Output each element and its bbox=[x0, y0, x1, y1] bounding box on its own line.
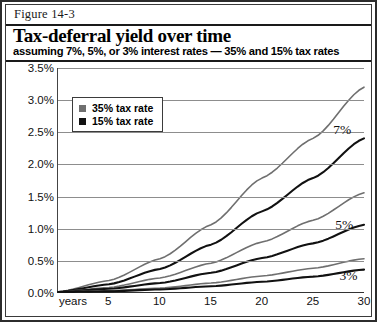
y-axis-tick: 0.0% bbox=[28, 287, 54, 299]
gridline bbox=[58, 229, 364, 230]
y-axis-tick: 2.0% bbox=[28, 158, 54, 170]
x-axis-tick: 25 bbox=[306, 295, 319, 307]
gridline bbox=[58, 261, 364, 262]
gridline bbox=[58, 132, 364, 133]
legend-swatch-icon bbox=[79, 118, 86, 125]
y-axis-tick: 1.0% bbox=[28, 223, 54, 235]
x-axis-tick: 5 bbox=[105, 295, 111, 307]
legend-label: 15% tax rate bbox=[92, 115, 153, 127]
x-axis-tick: 30 bbox=[358, 295, 371, 307]
legend-item-tax35: 35% tax rate bbox=[79, 102, 153, 114]
legend-item-tax15: 15% tax rate bbox=[79, 115, 153, 127]
series-line bbox=[58, 138, 364, 292]
gridline bbox=[58, 68, 364, 69]
figure-panel: Figure 14-3 Tax-deferral yield over time… bbox=[0, 0, 377, 322]
x-axis-tick: 20 bbox=[255, 295, 268, 307]
figure-number: Figure 14-3 bbox=[14, 7, 75, 22]
series-annotation: 3% bbox=[339, 268, 357, 284]
page-title: Tax-deferral yield over time bbox=[13, 25, 231, 47]
x-axis-tick: 10 bbox=[153, 295, 166, 307]
y-axis-tick: 3.5% bbox=[28, 62, 54, 74]
gridline bbox=[58, 164, 364, 165]
y-axis-tick: 3.0% bbox=[28, 94, 54, 106]
chart-container: 0.0%0.5%1.0%1.5%2.0%2.5%3.0%3.5% years51… bbox=[6, 61, 371, 313]
y-axis-tick: 2.5% bbox=[28, 126, 54, 138]
gridline bbox=[58, 197, 364, 198]
chart-legend: 35% tax rate 15% tax rate bbox=[72, 97, 163, 132]
figure-subtitle: assuming 7%, 5%, or 3% interest rates — … bbox=[13, 45, 339, 57]
x-axis-tick-labels: years51015202530 bbox=[57, 295, 364, 313]
x-axis-tick: 15 bbox=[204, 295, 217, 307]
series-annotation: 7% bbox=[333, 122, 351, 138]
x-axis-tick: years bbox=[59, 295, 87, 307]
legend-label: 35% tax rate bbox=[92, 102, 153, 114]
legend-swatch-icon bbox=[79, 105, 86, 112]
y-axis-tick: 1.5% bbox=[28, 191, 54, 203]
series-annotation: 5% bbox=[335, 217, 353, 233]
y-axis-tick-labels: 0.0%0.5%1.0%1.5%2.0%2.5%3.0%3.5% bbox=[6, 61, 56, 293]
y-axis-tick: 0.5% bbox=[28, 255, 54, 267]
